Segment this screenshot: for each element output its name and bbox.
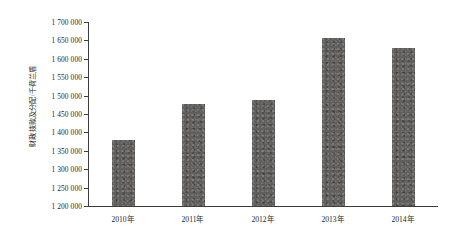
y-tick-mark <box>84 188 88 189</box>
y-tick-mark <box>84 96 88 97</box>
y-tick-mark <box>84 59 88 60</box>
bar <box>112 140 135 206</box>
y-axis-title: 财政拨款及分配/千荷兰盾 <box>24 0 40 212</box>
x-tick-label: 2014年 <box>391 213 414 224</box>
y-tick-label: 1 250 000 <box>52 183 82 192</box>
x-tick-label: 2013年 <box>321 213 344 224</box>
bar <box>182 104 205 206</box>
y-tick-label: 1 200 000 <box>52 202 82 211</box>
x-axis-line <box>88 206 438 207</box>
chart-figure: 财政拨款及分配/千荷兰盾 1 700 0001 650 0001 600 000… <box>0 0 450 242</box>
y-tick-label: 1 600 000 <box>52 54 82 63</box>
y-tick-mark <box>84 22 88 23</box>
bar <box>322 38 345 206</box>
y-tick-mark <box>84 40 88 41</box>
bar <box>392 48 415 206</box>
y-tick-label: 1 650 000 <box>52 36 82 45</box>
y-tick-label: 1 400 000 <box>52 128 82 137</box>
y-tick-label: 1 550 000 <box>52 73 82 82</box>
y-tick-mark <box>84 114 88 115</box>
y-tick-mark <box>84 132 88 133</box>
y-tick-label: 1 350 000 <box>52 146 82 155</box>
x-tick-label: 2012年 <box>251 213 274 224</box>
y-axis-title-text: 财政拨款及分配/千荷兰盾 <box>27 65 37 146</box>
bar <box>252 100 275 206</box>
y-tick-mark <box>84 77 88 78</box>
y-tick-label: 1 300 000 <box>52 165 82 174</box>
y-axis-line <box>88 22 89 207</box>
y-tick-label: 1 450 000 <box>52 110 82 119</box>
y-tick-mark <box>84 151 88 152</box>
plot-area: 1 700 0001 650 0001 600 0001 550 0001 50… <box>88 22 438 207</box>
x-tick-label: 2010年 <box>111 213 134 224</box>
y-tick-label: 1 500 000 <box>52 91 82 100</box>
x-tick-label: 2011年 <box>182 213 205 224</box>
y-tick-mark <box>84 169 88 170</box>
y-tick-label: 1 700 000 <box>52 18 82 27</box>
y-tick-mark <box>84 206 88 207</box>
